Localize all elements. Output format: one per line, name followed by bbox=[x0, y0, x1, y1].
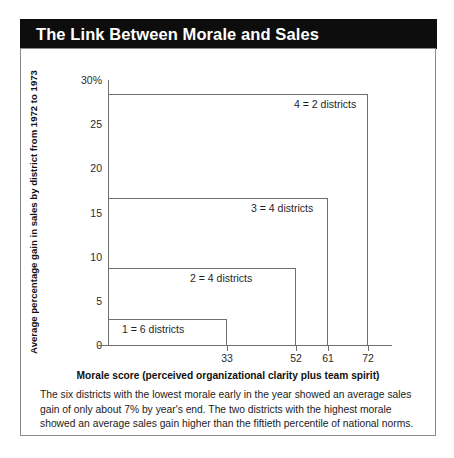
x-axis-title: Morale score (perceived organizational c… bbox=[20, 370, 436, 381]
x-tick-label-52: 52 bbox=[290, 352, 302, 364]
x-tick-mark-52 bbox=[296, 345, 297, 351]
y-tick-10: 10 bbox=[90, 251, 102, 263]
y-tick-5: 5 bbox=[96, 295, 102, 307]
y-tick-15: 15 bbox=[90, 207, 102, 219]
x-tick-mark-72 bbox=[368, 345, 369, 351]
bar-label-3: 3 = 4 districts bbox=[251, 202, 313, 214]
y-axis-title: Average percentage gain in sales by dist… bbox=[28, 70, 39, 354]
y-tick-30: 30% bbox=[81, 74, 102, 86]
chart-caption: The six districts with the lowest morale… bbox=[40, 388, 420, 432]
x-tick-label-61: 61 bbox=[322, 352, 334, 364]
chart-figure: The Link Between Morale and Sales Averag… bbox=[0, 0, 454, 458]
y-tick-20: 20 bbox=[90, 162, 102, 174]
bar-label-1: 1 = 6 districts bbox=[122, 323, 184, 335]
bar-label-2: 2 = 4 districts bbox=[190, 272, 252, 284]
x-tick-mark-61 bbox=[328, 345, 329, 351]
x-tick-label-33: 33 bbox=[221, 352, 233, 364]
x-tick-label-72: 72 bbox=[362, 352, 374, 364]
x-tick-mark-33 bbox=[227, 345, 228, 351]
bar-label-4: 4 = 2 districts bbox=[294, 98, 356, 110]
y-tick-25: 25 bbox=[90, 118, 102, 130]
